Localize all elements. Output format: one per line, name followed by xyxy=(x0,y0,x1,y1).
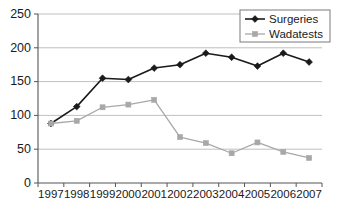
x-tick-label-2007: 2007 xyxy=(296,188,322,200)
chart-legend: SurgeriesWadatests xyxy=(240,10,330,42)
data-point-wadatests-1998 xyxy=(74,118,79,123)
x-tick-label-1999: 1999 xyxy=(90,188,116,200)
legend-label-surgeries: Surgeries xyxy=(269,13,318,25)
legend-label-wadatests: Wadatests xyxy=(269,28,323,40)
line-chart: 050100150200250 199719981999200020012002… xyxy=(0,0,337,210)
y-tick-label-250: 250 xyxy=(10,7,31,21)
y-tick-label-50: 50 xyxy=(17,142,31,156)
data-point-wadatests-2002 xyxy=(178,135,183,140)
x-tick-label-1998: 1998 xyxy=(64,188,90,200)
x-tick-label-2002: 2002 xyxy=(167,188,193,200)
data-point-wadatests-2004 xyxy=(229,151,234,156)
data-point-wadatests-1997 xyxy=(48,121,53,126)
data-point-wadatests-2006 xyxy=(281,149,286,154)
x-tick-label-1997: 1997 xyxy=(38,188,64,200)
data-point-wadatests-2001 xyxy=(152,97,157,102)
x-tick-label-2005: 2005 xyxy=(245,188,271,200)
data-point-wadatests-2003 xyxy=(203,141,208,146)
data-point-wadatests-2005 xyxy=(255,140,260,145)
x-tick-label-2001: 2001 xyxy=(141,188,167,200)
data-point-wadatests-2000 xyxy=(126,102,131,107)
y-tick-label-150: 150 xyxy=(10,74,31,88)
x-tick-label-2003: 2003 xyxy=(193,188,219,200)
x-tick-label-2006: 2006 xyxy=(270,188,296,200)
data-point-wadatests-1999 xyxy=(100,105,105,110)
y-tick-label-200: 200 xyxy=(10,41,31,55)
y-tick-label-0: 0 xyxy=(24,176,31,190)
chart-canvas: 050100150200250 199719981999200020012002… xyxy=(0,0,337,210)
legend-swatch-marker-wadatests xyxy=(253,32,258,37)
y-tick-label-100: 100 xyxy=(10,108,31,122)
x-tick-label-2000: 2000 xyxy=(116,188,142,200)
x-tick-label-2004: 2004 xyxy=(219,188,245,200)
x-axis-tick-labels: 1997199819992000200120022003200420052006… xyxy=(38,188,322,200)
data-point-wadatests-2007 xyxy=(307,155,312,160)
